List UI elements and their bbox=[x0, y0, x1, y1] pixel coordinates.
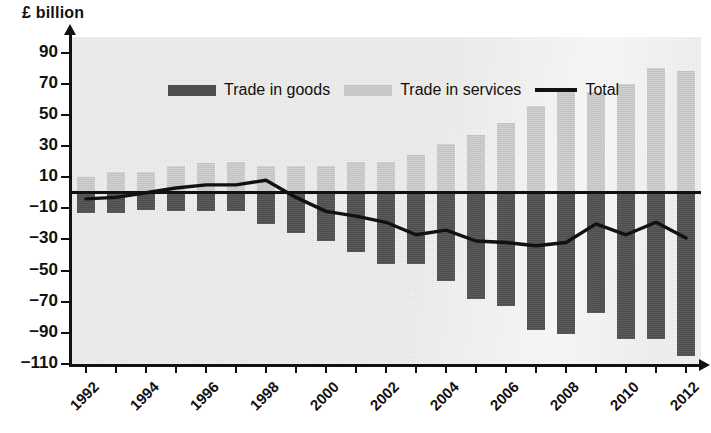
legend-swatch-services-icon bbox=[344, 85, 392, 96]
legend-item-goods: Trade in goods bbox=[168, 81, 330, 99]
y-axis-tick-label: 90 bbox=[39, 42, 58, 62]
x-axis-tick-label: 1992 bbox=[59, 378, 102, 421]
x-axis-tick bbox=[325, 364, 327, 373]
legend-swatch-total-icon bbox=[535, 88, 577, 92]
x-axis-tick-label: 2002 bbox=[359, 378, 402, 421]
legend-item-total: Total bbox=[535, 81, 619, 99]
y-axis-tick bbox=[61, 114, 70, 116]
plot-area: Trade in goods Trade in services Total bbox=[71, 37, 701, 364]
x-axis-tick bbox=[655, 364, 657, 373]
x-axis-tick bbox=[475, 364, 477, 373]
x-axis-arrow-icon bbox=[699, 359, 710, 371]
x-axis-tick bbox=[595, 364, 597, 373]
y-axis-tick-label: 70 bbox=[39, 73, 58, 93]
x-axis-tick bbox=[445, 364, 447, 373]
y-axis-tick-label: −10 bbox=[29, 197, 58, 217]
y-axis-unit-title: £ billion bbox=[22, 4, 84, 22]
x-axis-tick-label: 2008 bbox=[539, 378, 582, 421]
y-axis-tick-label: −30 bbox=[29, 228, 58, 248]
x-axis-tick bbox=[175, 364, 177, 373]
x-axis-tick bbox=[385, 364, 387, 373]
x-axis-tick bbox=[145, 364, 147, 373]
x-axis-tick bbox=[115, 364, 117, 373]
chart-legend: Trade in goods Trade in services Total bbox=[168, 81, 619, 99]
x-axis-tick-label: 1994 bbox=[119, 378, 162, 421]
x-axis-tick bbox=[85, 364, 87, 373]
legend-label-services: Trade in services bbox=[400, 81, 521, 99]
x-axis-tick bbox=[265, 364, 267, 373]
legend-label-goods: Trade in goods bbox=[224, 81, 330, 99]
x-axis-tick-label: 2012 bbox=[659, 378, 702, 421]
y-axis-tick-label: −110 bbox=[21, 353, 58, 373]
x-axis-tick-label: 2006 bbox=[479, 378, 522, 421]
legend-item-services: Trade in services bbox=[344, 81, 521, 99]
y-axis-arrow-icon bbox=[64, 24, 76, 35]
y-axis-tick-label: −70 bbox=[29, 291, 58, 311]
y-axis-tick bbox=[61, 238, 70, 240]
y-axis-tick-label: 50 bbox=[39, 104, 58, 124]
x-axis-tick bbox=[625, 364, 627, 373]
y-axis-tick bbox=[61, 332, 70, 334]
x-axis-tick bbox=[415, 364, 417, 373]
x-axis-tick bbox=[565, 364, 567, 373]
y-axis-tick bbox=[61, 363, 70, 365]
y-axis-tick bbox=[61, 301, 70, 303]
x-axis-tick bbox=[535, 364, 537, 373]
y-axis-tick-label: −90 bbox=[29, 322, 58, 342]
legend-swatch-goods-icon bbox=[168, 85, 216, 96]
x-axis-tick bbox=[355, 364, 357, 373]
legend-label-total: Total bbox=[585, 81, 619, 99]
chart-figure: £ billion Trade in goods Trade in servic… bbox=[0, 0, 711, 433]
x-axis-tick-label: 1996 bbox=[179, 378, 222, 421]
y-axis-tick-label: −50 bbox=[29, 260, 58, 280]
y-axis-tick bbox=[61, 145, 70, 147]
y-axis-tick bbox=[61, 83, 70, 85]
x-axis-tick bbox=[295, 364, 297, 373]
y-axis-tick-label: 30 bbox=[39, 135, 58, 155]
x-axis-tick bbox=[685, 364, 687, 373]
x-axis-tick-label: 2004 bbox=[419, 378, 462, 421]
x-axis-tick-label: 2010 bbox=[599, 378, 642, 421]
y-axis-tick bbox=[61, 176, 70, 178]
y-axis-tick bbox=[61, 207, 70, 209]
y-axis-tick bbox=[61, 270, 70, 272]
x-axis-tick bbox=[205, 364, 207, 373]
x-axis-tick bbox=[505, 364, 507, 373]
x-axis-tick-label: 1998 bbox=[239, 378, 282, 421]
x-axis-tick-label: 2000 bbox=[299, 378, 342, 421]
x-axis-tick bbox=[235, 364, 237, 373]
y-axis-tick-label: 10 bbox=[39, 166, 58, 186]
y-axis-tick bbox=[61, 52, 70, 54]
